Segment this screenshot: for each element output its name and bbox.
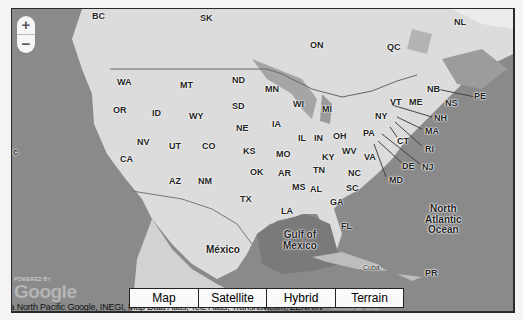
map-label-sd: SD (232, 102, 245, 111)
map-label-mo: MO (276, 150, 291, 159)
map-label-ar: AR (278, 169, 291, 178)
map-label-tx: TX (240, 195, 252, 204)
map-label-sk: SK (200, 14, 213, 23)
map-label-bc: BC (92, 12, 105, 21)
map-label-co: CO (202, 142, 216, 151)
map-label-az: AZ (169, 177, 181, 186)
map-label-tn: TN (313, 166, 325, 175)
map-label-vt: VT (390, 98, 402, 107)
map-label-or: OR (113, 106, 127, 115)
map-label-sc: SC (346, 184, 359, 193)
map-label-id: ID (152, 109, 161, 118)
map-label-mt: MT (180, 81, 193, 90)
map-canvas[interactable]: BCSKONQCNLNBNSPEWAMTNDMNORIDWYSDWIMINEIA… (11, 8, 515, 313)
map-label-nj: NJ (422, 163, 434, 172)
map-label-ok: OK (250, 168, 264, 177)
map-label-il: IL (298, 134, 306, 143)
map-label-qc: QC (387, 43, 401, 52)
map-label-north-atlantic-ocean: NorthAtlanticOcean (425, 204, 462, 236)
map-label-wy: WY (189, 112, 204, 121)
zoom-out-button[interactable]: − (17, 35, 35, 53)
map-label-ut: UT (169, 142, 181, 151)
map-label-mi: MI (322, 105, 332, 114)
map-label-me: ME (409, 98, 423, 107)
map-label-wi: WI (293, 100, 304, 109)
map-label-on: ON (310, 41, 324, 50)
map-label-la: LA (281, 207, 293, 216)
map-label-md: MD (389, 176, 403, 185)
map-label-ca: CA (120, 155, 133, 164)
map-label-ms: MS (292, 183, 306, 192)
map-label-ga: GA (330, 198, 344, 207)
map-type-control: Map Satellite Hybrid Terrain (130, 288, 404, 308)
map-label-wv: WV (342, 147, 357, 156)
map-label-nv: NV (137, 138, 150, 147)
map-label-ny: NY (375, 112, 388, 121)
map-label-pr: PR (425, 269, 438, 278)
map-label-ns: NS (445, 99, 458, 108)
map-type-satellite-button[interactable]: Satellite (198, 288, 267, 308)
map-label-mn: MN (265, 85, 279, 94)
map-label-nl: NL (454, 18, 466, 27)
map-label-wa: WA (117, 78, 132, 87)
google-logo[interactable]: Google (14, 281, 76, 303)
map-type-map-button[interactable]: Map (129, 288, 199, 308)
map-label-pe: PE (474, 92, 486, 101)
map-label-fl: FL (341, 222, 352, 231)
map-label-ia: IA (272, 120, 281, 129)
map-type-terrain-button[interactable]: Terrain (335, 288, 404, 308)
map-tiles (12, 9, 513, 311)
map-label-c: c (13, 148, 18, 157)
map-label-ky: KY (322, 153, 335, 162)
map-label-in: IN (314, 134, 323, 143)
map-label-oh: OH (333, 132, 347, 141)
zoom-in-button[interactable]: + (17, 16, 35, 35)
map-label-nc: NC (348, 169, 361, 178)
map-label-pa: PA (363, 129, 375, 138)
map-label-va: VA (364, 153, 376, 162)
zoom-control: + − (17, 16, 35, 53)
map-label-ri: RI (425, 145, 434, 154)
map-type-hybrid-button[interactable]: Hybrid (266, 288, 336, 308)
map-label-ne: NE (236, 124, 249, 133)
map-label-ct: CT (397, 137, 409, 146)
map-label-méxico: México (206, 245, 240, 256)
map-label-de: DE (402, 162, 415, 171)
map-label-al: AL (310, 185, 322, 194)
map-label-gulf-of-mexico: Gulf ofMexico (283, 230, 317, 251)
map-label-nh: NH (434, 114, 447, 123)
map-label-nb: NB (427, 85, 440, 94)
map-label-ma: MA (425, 127, 439, 136)
map-label-cuba: Cuba (363, 264, 380, 271)
map-label-nm: NM (198, 177, 212, 186)
map-label-ks: KS (243, 147, 256, 156)
map-label-nd: ND (232, 76, 245, 85)
